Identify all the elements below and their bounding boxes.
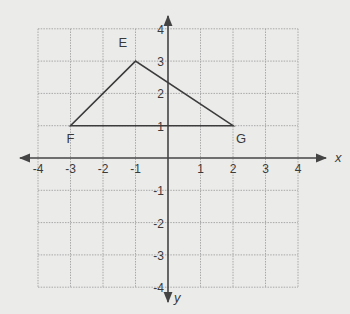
x-tick-label: -2 <box>98 162 109 176</box>
x-tick-label: -4 <box>33 162 44 176</box>
vertex-labels: EFG <box>67 35 247 146</box>
coordinate-plane: xy -4-3-2-112344321-1-2-3-4 EFG <box>0 0 350 314</box>
y-tick-label: -1 <box>153 184 164 198</box>
x-tick-label: 4 <box>295 162 302 176</box>
y-tick-label: 1 <box>157 120 164 134</box>
y-tick-label: -3 <box>153 249 164 263</box>
tick-labels: -4-3-2-112344321-1-2-3-4 <box>33 23 302 295</box>
y-tick-label: 2 <box>157 87 164 101</box>
y-axis-label: y <box>173 290 182 305</box>
x-tick-label: 1 <box>197 162 204 176</box>
y-tick-label: -4 <box>153 281 164 295</box>
axes: xy <box>20 16 342 305</box>
y-tick-label: 3 <box>157 55 164 69</box>
y-tick-label: -2 <box>153 217 164 231</box>
vertex-label-e: E <box>119 35 128 50</box>
x-tick-label: -3 <box>65 162 76 176</box>
x-tick-label: 2 <box>230 162 237 176</box>
x-tick-label: -1 <box>130 162 141 176</box>
vertex-label-g: G <box>236 131 246 146</box>
plot-svg: xy -4-3-2-112344321-1-2-3-4 EFG <box>0 0 350 314</box>
x-axis-label: x <box>334 150 342 165</box>
x-tick-label: 3 <box>262 162 269 176</box>
y-tick-label: 4 <box>157 23 164 37</box>
vertex-label-f: F <box>67 131 75 146</box>
